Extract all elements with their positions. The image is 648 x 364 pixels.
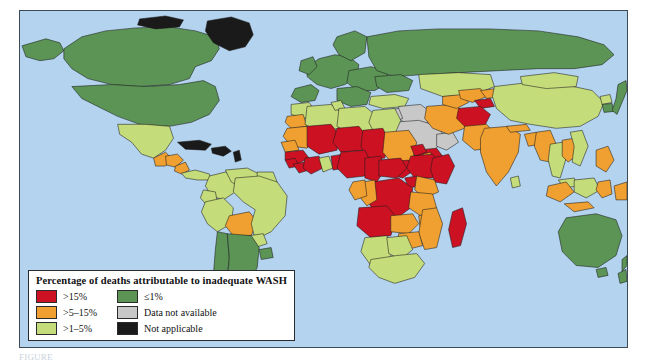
country-alaska xyxy=(22,39,64,61)
legend-item-na: Not applicable xyxy=(117,322,217,335)
legend-label-gt5-15: >5–15% xyxy=(63,307,97,318)
legend-item-gt5-15: >5–15% xyxy=(36,306,97,319)
country-western-sahara xyxy=(285,114,307,128)
country-cuba xyxy=(177,140,211,150)
legend-swatch-gt5-15 xyxy=(36,306,57,319)
country-north-korea xyxy=(600,95,612,105)
legend-swatch-gt15 xyxy=(36,290,57,303)
legend-column-right: ≤1% Data not available Not applicable xyxy=(117,290,217,335)
legend-label-na: Not applicable xyxy=(144,323,203,334)
country-arctic-islands xyxy=(138,16,184,29)
country-gabon xyxy=(349,180,367,200)
legend-swatch-nodata xyxy=(117,306,138,319)
figure-caption: FIGURE xyxy=(19,352,53,362)
country-russia xyxy=(367,29,614,77)
legend-item-le1: ≤1% xyxy=(117,290,217,303)
country-philippines xyxy=(596,146,614,172)
legend-label-le1: ≤1% xyxy=(144,291,163,302)
country-papua-new-guinea xyxy=(614,182,627,200)
country-china xyxy=(492,83,604,129)
country-sri-lanka xyxy=(510,176,520,188)
legend-title: Percentage of deaths attributable to ina… xyxy=(36,275,287,286)
legend-label-nodata: Data not available xyxy=(144,307,217,318)
country-japan xyxy=(612,81,627,115)
country-lesser-antilles xyxy=(233,150,241,162)
country-madagascar xyxy=(449,208,467,248)
country-uae-oman xyxy=(437,132,459,150)
country-new-zealand xyxy=(618,256,627,284)
region-iberia xyxy=(291,85,319,103)
country-south-korea xyxy=(602,103,614,112)
map-legend: Percentage of deaths attributable to ina… xyxy=(28,270,295,341)
legend-label-gt1-5: >1–5% xyxy=(63,323,92,334)
legend-column-left: >15% >5–15% >1–5% xyxy=(36,290,97,335)
country-canada xyxy=(64,27,219,87)
legend-label-gt15: >15% xyxy=(63,291,87,302)
country-indonesia-borneo xyxy=(574,178,600,198)
legend-item-gt15: >15% xyxy=(36,290,97,303)
country-uruguay xyxy=(259,248,273,260)
country-indonesia-sulawesi xyxy=(596,180,612,198)
country-tasmania xyxy=(596,267,608,277)
country-usa xyxy=(72,81,220,127)
country-indonesia-java xyxy=(564,202,594,212)
country-nepal xyxy=(506,124,530,132)
country-australia xyxy=(558,214,622,268)
legend-item-gt1-5: >1–5% xyxy=(36,322,97,335)
map-frame: Percentage of deaths attributable to ina… xyxy=(19,10,628,348)
country-ghana xyxy=(319,156,333,172)
country-zambia xyxy=(391,214,419,234)
legend-swatch-gt1-5 xyxy=(36,322,57,335)
legend-swatch-le1 xyxy=(117,290,138,303)
country-ukraine xyxy=(375,75,413,93)
legend-item-nodata: Data not available xyxy=(117,306,217,319)
legend-swatch-na xyxy=(117,322,138,335)
country-somalia xyxy=(431,154,455,184)
country-hispaniola xyxy=(211,146,231,156)
